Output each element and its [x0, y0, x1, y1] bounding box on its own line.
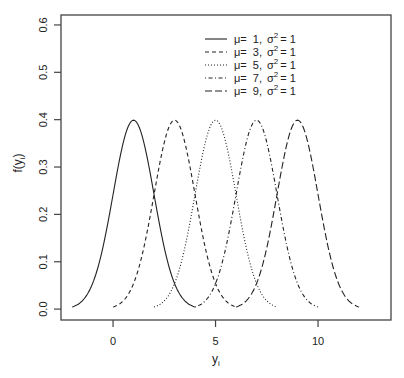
- legend-label: μ=5,σ2= 1: [234, 57, 296, 71]
- plot-frame: [61, 15, 391, 320]
- legend-label: μ=1,σ2= 1: [234, 31, 296, 45]
- y-tick-label: 0.3: [37, 159, 49, 174]
- density-curve-mu-9: [236, 120, 359, 307]
- density-curve-mu-1: [72, 120, 195, 307]
- x-axis: 0510: [110, 320, 324, 347]
- y-tick-label: 0.5: [37, 65, 49, 80]
- legend-label: μ=7,σ2= 1: [234, 70, 296, 84]
- legend-label: μ=3,σ2= 1: [234, 44, 296, 58]
- density-curves: [72, 120, 359, 307]
- legend: μ=1,σ2= 1μ=3,σ2= 1μ=5,σ2= 1μ=7,σ2= 1μ=9,…: [205, 31, 296, 97]
- x-tick-label: 0: [110, 335, 116, 347]
- y-axis-label: f(yi): [11, 153, 27, 172]
- y-tick-label: 0.6: [37, 17, 49, 32]
- x-tick-label: 10: [312, 335, 324, 347]
- y-tick-label: 0.0: [37, 301, 49, 316]
- legend-label: μ=9,σ2= 1: [234, 83, 296, 97]
- y-tick-label: 0.1: [37, 254, 49, 269]
- y-axis: 0.00.10.20.30.40.50.6: [37, 17, 61, 316]
- y-tick-label: 0.2: [37, 207, 49, 222]
- x-tick-label: 5: [212, 335, 218, 347]
- x-axis-label: yi: [212, 352, 220, 368]
- density-chart: 0.00.10.20.30.40.50.6 0510 μ=1,σ2= 1μ=3,…: [0, 0, 404, 378]
- y-tick-label: 0.4: [37, 112, 49, 127]
